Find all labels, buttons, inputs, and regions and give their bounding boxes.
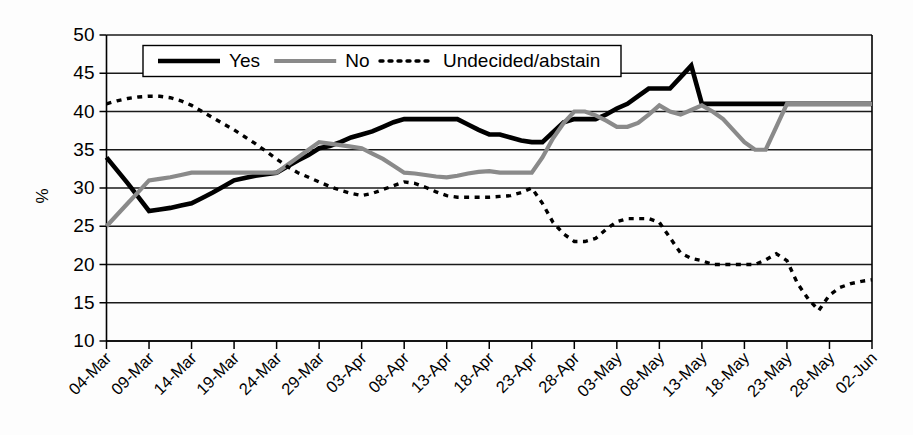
y-tick-label-25: 25 <box>73 215 94 236</box>
y-tick-label-20: 20 <box>73 254 94 275</box>
y-tick-label-10: 10 <box>73 330 94 351</box>
x-tick-label-02-jun: 02-Jun <box>832 348 880 396</box>
x-tick-label-23-may: 23-May <box>743 348 795 400</box>
x-tick-label-08-may: 08-May <box>616 348 668 400</box>
x-tick-label-23-apr: 23-Apr <box>492 348 540 396</box>
chart-container: 101520253035404550 04-Mar09-Mar14-Mar19-… <box>0 0 913 435</box>
y-tick-label-50: 50 <box>73 24 94 45</box>
x-tick-label-09-mar: 09-Mar <box>107 348 157 398</box>
x-tick-label-18-may: 18-May <box>701 348 753 400</box>
chart-legend: YesNoUndecided/abstain <box>143 46 621 77</box>
x-tick-label-18-apr: 18-Apr <box>450 348 498 396</box>
y-axis-ticks-group <box>100 35 107 341</box>
x-tick-label-19-mar: 19-Mar <box>193 348 243 398</box>
y-tick-label-30: 30 <box>73 177 94 198</box>
series-line-no <box>107 104 873 226</box>
x-tick-label-13-apr: 13-Apr <box>407 348 455 396</box>
y-tick-label-15: 15 <box>73 292 94 313</box>
x-tick-label-29-mar: 29-Mar <box>278 348 328 398</box>
x-tick-label-04-mar: 04-Mar <box>65 348 115 398</box>
x-tick-label-24-mar: 24-Mar <box>235 348 285 398</box>
x-tick-label-28-may: 28-May <box>786 348 838 400</box>
x-axis-ticks-group <box>107 341 873 349</box>
legend-label-undecided-abstain: Undecided/abstain <box>443 50 600 71</box>
x-axis-tick-labels: 04-Mar09-Mar14-Mar19-Mar24-Mar29-Mar03-A… <box>65 348 880 400</box>
y-axis-title: % <box>33 188 52 203</box>
y-tick-label-40: 40 <box>73 101 94 122</box>
legend-label-yes: Yes <box>229 50 260 71</box>
series-line-yes <box>107 66 873 211</box>
y-tick-label-45: 45 <box>73 62 94 83</box>
x-tick-label-08-apr: 08-Apr <box>365 348 413 396</box>
x-tick-label-13-may: 13-May <box>658 348 710 400</box>
legend-label-no: No <box>345 50 369 71</box>
x-tick-label-03-apr: 03-Apr <box>322 348 370 396</box>
x-tick-label-14-mar: 14-Mar <box>150 348 200 398</box>
x-tick-label-03-may: 03-May <box>573 348 625 400</box>
y-tick-label-35: 35 <box>73 139 94 160</box>
poll-trend-line-chart: 101520253035404550 04-Mar09-Mar14-Mar19-… <box>0 0 913 435</box>
y-axis-tick-labels: 101520253035404550 <box>73 24 94 351</box>
series-line-undecided <box>107 96 873 310</box>
